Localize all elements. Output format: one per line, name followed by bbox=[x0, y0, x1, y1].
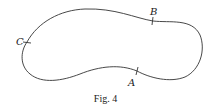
point-label-a: A bbox=[128, 78, 135, 88]
tick-c bbox=[23, 42, 31, 43]
tick-b bbox=[152, 17, 153, 25]
point-label-c: C bbox=[16, 37, 24, 47]
point-label-b: B bbox=[150, 7, 157, 17]
figure-caption: Fig. 4 bbox=[0, 93, 211, 104]
figure: C B A Fig. 4 bbox=[0, 0, 211, 109]
closed-curve bbox=[22, 9, 202, 80]
